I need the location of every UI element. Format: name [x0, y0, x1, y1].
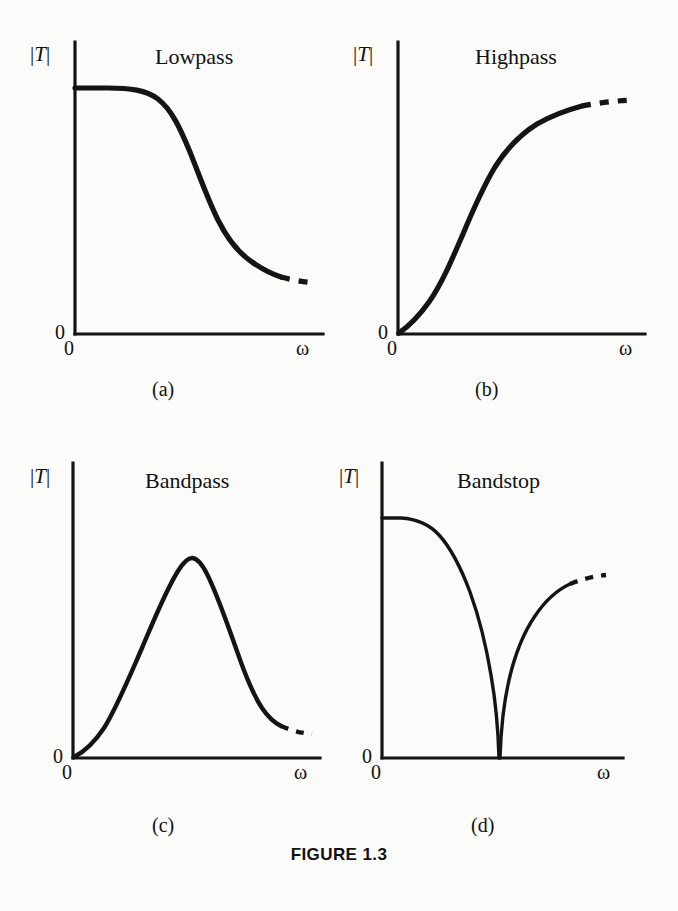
highpass-x-axis-label: ω: [619, 338, 632, 358]
highpass-y-axis-label: |T|: [353, 44, 373, 65]
bandpass-curve: [74, 558, 281, 757]
panel-bandstop: |T| 0 0 ω Bandstop (d): [339, 440, 678, 840]
lowpass-x-axis-label: ω: [296, 338, 309, 358]
bandpass-title: Bandpass: [145, 470, 229, 492]
bandstop-plot: [339, 440, 678, 840]
bandpass-x-axis-label: ω: [294, 762, 307, 782]
bandstop-curve-dashed-tail: [570, 575, 606, 584]
bandpass-plot: [0, 440, 339, 840]
bandstop-x-axis-label: ω: [597, 762, 610, 782]
bandstop-title: Bandstop: [457, 470, 540, 492]
lowpass-y-axis-label: |T|: [30, 44, 50, 65]
bandstop-subcaption: (d): [471, 815, 494, 835]
panel-bandpass: |T| 0 0 ω Bandpass (c): [0, 440, 339, 840]
bandstop-curve-right: [500, 584, 570, 758]
highpass-title: Highpass: [475, 46, 557, 68]
highpass-subcaption: (b): [475, 379, 498, 399]
highpass-curve: [399, 106, 582, 333]
bandpass-y-axis-label: |T|: [30, 466, 50, 487]
bandstop-x-origin-label: 0: [371, 762, 381, 782]
panel-highpass: |T| 0 0 ω Highpass (b): [339, 0, 678, 400]
bandstop-curve-left: [382, 518, 499, 758]
highpass-curve-dashed-tail: [582, 100, 631, 106]
panel-lowpass: |T| 0 0 ω Lowpass (a): [0, 0, 339, 400]
lowpass-curve: [75, 88, 281, 277]
bandpass-curve-dashed-tail: [281, 726, 312, 734]
highpass-x-origin-label: 0: [387, 338, 397, 358]
lowpass-subcaption: (a): [152, 379, 174, 399]
figure-caption: FIGURE 1.3: [0, 845, 678, 865]
lowpass-title: Lowpass: [155, 46, 233, 68]
bandstop-y-axis-label: |T|: [339, 466, 359, 487]
figure-1-3: |T| 0 0 ω Lowpass (a) |T| 0 0 ω Highpass…: [0, 0, 678, 911]
bandpass-subcaption: (c): [152, 815, 174, 835]
lowpass-x-origin-label: 0: [64, 338, 74, 358]
lowpass-curve-dashed-tail: [281, 277, 316, 283]
bandpass-x-origin-label: 0: [62, 762, 72, 782]
